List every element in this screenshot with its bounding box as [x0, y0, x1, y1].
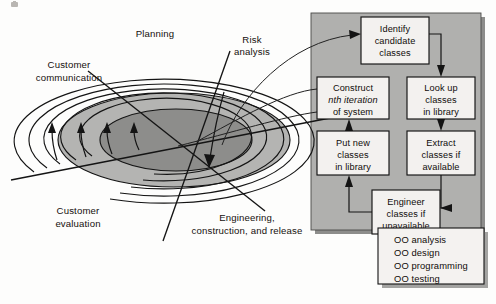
- spiral-rings: [14, 79, 314, 203]
- legend-item-oo-analysis: OO analysis: [394, 234, 446, 245]
- legend-item-oo-design: OO design: [394, 247, 440, 258]
- box-extract-line3: available: [422, 162, 459, 172]
- box-extract-line2: classes if: [422, 150, 461, 160]
- box-identify-line3: classes: [379, 48, 411, 58]
- process-box-put-new-classes-in-library[interactable]: Put new classes in library: [317, 131, 389, 175]
- label-risk-analysis-line1: Risk: [242, 34, 261, 45]
- process-box-construct-nth-iteration-of-system[interactable]: Construct nth iteration of system: [317, 77, 389, 119]
- figure-canvas: Planning Risk analysis Customer communic…: [0, 0, 496, 304]
- box-construct-line2: nth iteration: [328, 95, 377, 105]
- process-box-identify-candidate-classes[interactable]: Identify candidate classes: [361, 17, 429, 64]
- box-lookup-line3: in library: [423, 107, 459, 117]
- box-construct-line3: of system: [333, 107, 373, 117]
- box-lookup-line1: Look up: [424, 83, 457, 93]
- label-customer-evaluation-line2: evaluation: [55, 218, 100, 229]
- label-risk-analysis-line2: analysis: [234, 46, 270, 57]
- scan-artifact-speck: [11, 1, 18, 7]
- label-customer-evaluation-line1: Customer: [57, 205, 100, 216]
- process-box-engineer-classes-if-unavailable[interactable]: Engineer classes if unavailable: [372, 190, 440, 234]
- box-identify-line2: candidate: [375, 36, 416, 46]
- legend-item-oo-programming: OO programming: [394, 260, 468, 271]
- box-putnew-line2: classes: [337, 150, 369, 160]
- label-customer-communication-line2: communication: [36, 72, 102, 83]
- box-engineer-line2: classes if: [387, 209, 426, 219]
- box-putnew-line3: in library: [335, 162, 371, 172]
- box-lookup-line2: classes: [425, 95, 457, 105]
- label-planning: Planning: [136, 28, 175, 39]
- process-box-look-up-classes-in-library[interactable]: Look up classes in library: [407, 77, 475, 119]
- label-engineering-line2: construction, and release: [192, 225, 303, 236]
- label-engineering-line1: Engineering,: [219, 212, 275, 223]
- box-construct-line1: Construct: [333, 83, 374, 93]
- spiral-model-diagram: Planning Risk analysis Customer communic…: [0, 0, 496, 304]
- label-customer-communication-line1: Customer: [48, 59, 91, 70]
- legend-item-oo-testing: OO testing: [394, 273, 440, 284]
- process-box-extract-classes-if-available[interactable]: Extract classes if available: [407, 131, 475, 175]
- box-extract-line1: Extract: [426, 138, 456, 148]
- oo-activities-legend[interactable]: OO analysis OO design OO programming OO …: [378, 228, 488, 288]
- box-engineer-line1: Engineer: [387, 197, 425, 207]
- box-putnew-line1: Put new: [336, 138, 370, 148]
- box-identify-line1: Identify: [380, 24, 411, 34]
